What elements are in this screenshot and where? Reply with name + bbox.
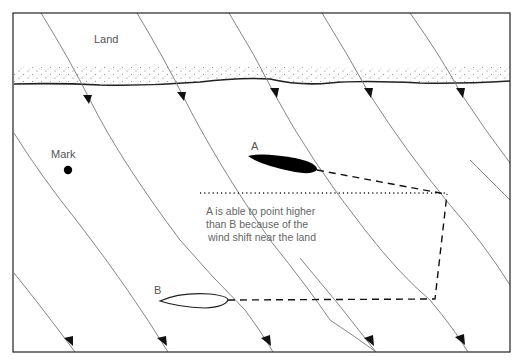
- arrow-icon: [270, 88, 279, 98]
- wind-line-7: [14, 273, 75, 352]
- note-line-1: A is able to point higher: [206, 205, 316, 217]
- arrow-icon: [64, 336, 73, 346]
- path-a: [317, 170, 447, 194]
- land-label: Land: [94, 33, 118, 45]
- arrow-icon: [456, 88, 465, 98]
- arrow-icon: [455, 334, 465, 345]
- diagram-frame: [13, 13, 510, 352]
- wind-line-9: [330, 320, 376, 352]
- beach-stipple: [14, 64, 510, 84]
- boat-b: [160, 294, 228, 308]
- wind-line-1: [41, 13, 245, 310]
- mark-label: Mark: [51, 148, 76, 160]
- wind-line-10: [430, 300, 468, 352]
- wind-line-8: [245, 310, 273, 352]
- wind-shift-diagram: Land Mark A B A is able to point higher …: [0, 0, 525, 360]
- wind-line-4: [322, 13, 510, 285]
- note-line-3: wind shift near the land: [207, 231, 316, 243]
- mark-buoy: [64, 166, 72, 174]
- wind-arrows: [64, 88, 465, 346]
- boat-a-label: A: [251, 140, 259, 152]
- wind-line-6: [14, 133, 168, 352]
- arrow-icon: [261, 335, 271, 346]
- arrow-icon: [83, 95, 92, 104]
- boat-a: [248, 154, 317, 173]
- note-line-2: than B because of the: [206, 218, 308, 230]
- boat-b-label: B: [154, 284, 161, 296]
- arrow-icon: [364, 88, 373, 98]
- wind-lines: [14, 13, 510, 352]
- wind-line-12: [470, 160, 510, 200]
